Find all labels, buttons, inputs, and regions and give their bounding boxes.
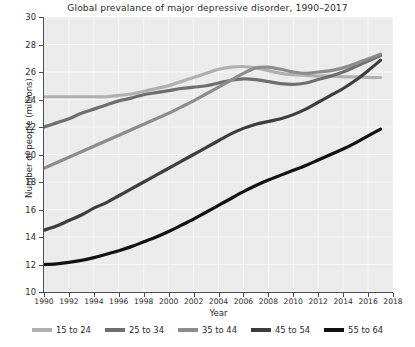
y-tick-label: 30 (0, 12, 36, 22)
x-tick-label: 2018 (378, 297, 408, 306)
legend-item[interactable]: 15 to 24 (32, 325, 91, 335)
legend-item[interactable]: 45 to 54 (251, 325, 310, 335)
series-lines-layer (44, 17, 393, 292)
legend-label: 45 to 54 (275, 325, 310, 335)
legend-swatch (32, 328, 52, 331)
y-axis-label: Number of people (millions) (24, 43, 34, 233)
y-tick-mark (39, 237, 43, 238)
legend-swatch (105, 328, 125, 331)
y-tick-mark (39, 292, 43, 293)
y-tick-mark (39, 17, 43, 18)
legend-swatch (324, 328, 344, 331)
legend-label: 25 to 34 (129, 325, 164, 335)
legend-item[interactable]: 35 to 44 (178, 325, 237, 335)
legend-label: 55 to 64 (348, 325, 383, 335)
y-axis-spine (43, 17, 44, 293)
plot-area (44, 17, 393, 292)
y-tick-mark (39, 72, 43, 73)
x-axis-label: Year (44, 308, 393, 318)
chart-title: Global prevalance of major depressive di… (0, 2, 415, 13)
y-tick-mark (39, 127, 43, 128)
y-tick-label: 14 (0, 232, 36, 242)
chart-legend: 15 to 2425 to 3435 to 4445 to 5455 to 64 (0, 325, 415, 335)
y-tick-mark (39, 265, 43, 266)
legend-label: 15 to 24 (56, 325, 91, 335)
y-tick-mark (39, 182, 43, 183)
legend-swatch (178, 328, 198, 331)
y-tick-mark (39, 45, 43, 46)
series-line-55-to-64 (44, 129, 381, 264)
y-tick-label: 10 (0, 287, 36, 297)
legend-item[interactable]: 25 to 34 (105, 325, 164, 335)
legend-label: 35 to 44 (202, 325, 237, 335)
chart-figure: Global prevalance of major depressive di… (0, 0, 415, 347)
y-tick-mark (39, 100, 43, 101)
y-tick-mark (39, 210, 43, 211)
legend-item[interactable]: 55 to 64 (324, 325, 383, 335)
y-tick-mark (39, 155, 43, 156)
y-tick-label: 12 (0, 260, 36, 270)
legend-swatch (251, 328, 271, 331)
